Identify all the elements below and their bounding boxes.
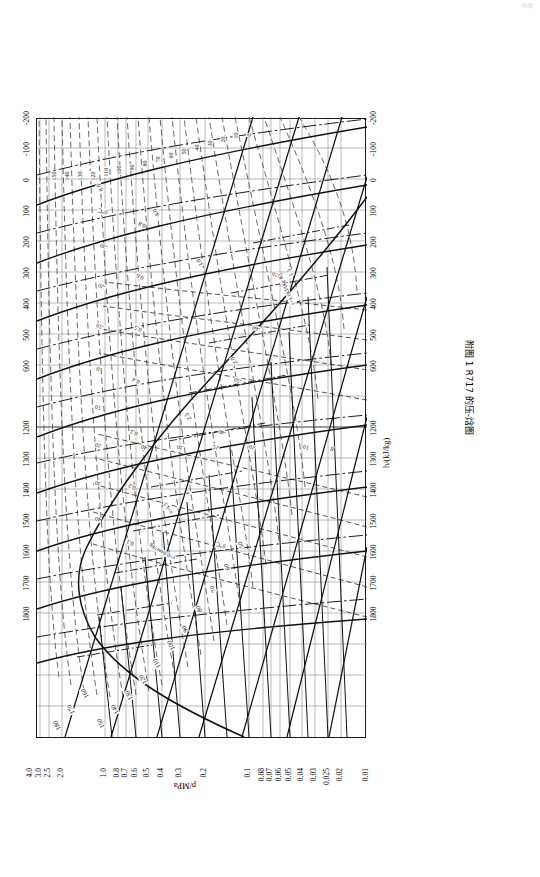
pressure-tick: 0.05: [285, 768, 293, 781]
pressure-tick: 0.08: [258, 768, 266, 781]
enthalpy-tick: 100: [370, 205, 378, 216]
pressure-tick: 0.03: [310, 768, 318, 781]
enthalpy-tick: 500: [23, 329, 31, 340]
pressure-tick: 1.0: [100, 768, 108, 778]
pressure-tick: 0.06: [275, 768, 283, 781]
enthalpy-tick: 600: [23, 360, 31, 371]
pressure-tick: 2.0: [57, 768, 65, 778]
isotherm-label: 140: [64, 171, 70, 181]
pressure-tick: 3.0: [35, 768, 43, 778]
isotherm-label: 150: [51, 171, 57, 181]
enthalpy-tick: 1800: [370, 606, 378, 621]
pressure-tick: 0.4: [157, 768, 165, 778]
plot-svg: [37, 117, 367, 737]
pressure-tick: 0.8: [113, 768, 121, 778]
enthalpy-tick: 400: [370, 298, 378, 309]
enthalpy-tick: 500: [370, 329, 378, 340]
enthalpy-tick: 200: [23, 236, 31, 247]
isotherm-label: 120: [90, 171, 96, 181]
enthalpy-tick: 100: [23, 205, 31, 216]
isotherm-label: 80: [142, 160, 148, 167]
isotherm-label: 110: [103, 167, 109, 177]
enthalpy-tick: 1500: [23, 513, 31, 528]
enthalpy-tick: -100: [23, 142, 31, 156]
isotherm-label: 130: [77, 171, 83, 181]
pressure-tick: 0.02: [336, 768, 344, 781]
chart-page: 附图: [0, 0, 540, 877]
enthalpy-tick: 1300: [370, 451, 378, 466]
pressure-tick: 0.04: [297, 768, 305, 781]
enthalpy-tick: 1600: [23, 544, 31, 559]
enthalpy-tick: 1600: [370, 544, 378, 559]
enthalpy-tick: 200: [370, 236, 378, 247]
isotherm-label: 30: [207, 140, 213, 147]
enthalpy-tick: 300: [23, 267, 31, 278]
pressure-tick: 0.7: [121, 768, 129, 778]
rotated-chart-container: 180 170 160 150 140 130 120 110 100 90 8…: [0, 78, 400, 798]
enthalpy-tick: 1400: [370, 482, 378, 497]
page-header-faint: 附图: [522, 1, 534, 8]
enthalpy-tick: 0: [370, 178, 378, 182]
pressure-tick: 0.5: [143, 768, 151, 778]
pressure-tick: 0.025: [323, 768, 331, 785]
enthalpy-tick: 1700: [370, 575, 378, 590]
isotherm-label: 20: [220, 136, 226, 143]
pressure-tick: 4.0: [26, 768, 34, 778]
pressure-tick: 0.2: [200, 768, 208, 778]
isochores: [37, 119, 367, 637]
enthalpy-tick: 1200: [23, 420, 31, 435]
isotherm-label: 50: [181, 148, 187, 155]
pressure-tick: 0.3: [175, 768, 183, 778]
enthalpy-tick: 1200: [370, 420, 378, 435]
enthalpy-tick: 1800: [23, 606, 31, 621]
pressure-tick: 0.07: [266, 768, 274, 781]
enthalpy-tick: -200: [23, 111, 31, 125]
isotherm-label: 90: [129, 164, 135, 171]
isotherm-label: 0: [246, 133, 252, 137]
y-axis-title: p/MPa: [174, 781, 196, 790]
isotherm-label: 60: [168, 152, 174, 159]
enthalpy-tick: 400: [23, 298, 31, 309]
figure-caption: 附图 1 R717 的压-焓图: [463, 340, 476, 435]
x-axis-title: h/(kJ/kg): [382, 438, 391, 468]
isotherm-label: 40: [194, 144, 200, 151]
enthalpy-tick: -100: [370, 142, 378, 156]
enthalpy-tick: 300: [370, 267, 378, 278]
pressure-tick: 0.1: [244, 768, 252, 778]
plot-area: 180 170 160 150 140 130 120 110 100 90 8…: [36, 118, 366, 738]
enthalpy-tick: 0: [23, 178, 31, 182]
pressure-tick: 0.6: [131, 768, 139, 778]
enthalpy-tick: 1500: [370, 513, 378, 528]
pressure-tick: 2.5: [44, 768, 52, 778]
isotherm-label: 100: [116, 165, 122, 175]
enthalpy-tick: 1700: [23, 575, 31, 590]
enthalpy-tick: -200: [370, 111, 378, 125]
enthalpy-tick: 1300: [23, 451, 31, 466]
pressure-tick: 0.01: [362, 768, 370, 781]
isotherm-label: 10: [233, 132, 239, 139]
enthalpy-tick: 1400: [23, 482, 31, 497]
enthalpy-tick: 600: [370, 360, 378, 371]
isotherm-label: 70: [155, 156, 161, 163]
